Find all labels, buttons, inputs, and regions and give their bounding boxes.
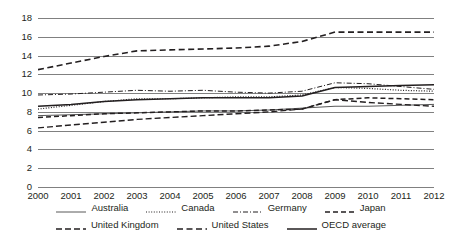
legend-row: United KingdomUnited StatesOECD average [0, 216, 442, 233]
legend-swatch-icon [287, 220, 317, 230]
legend-label: Japan [360, 203, 386, 213]
y-tick-label: 4 [10, 144, 32, 154]
series-lines [38, 18, 434, 187]
y-tick-label: 14 [10, 51, 32, 61]
legend-label: Australia [91, 203, 128, 213]
legend-item-united-states[interactable]: United States [177, 220, 269, 230]
legend-swatch-icon [146, 203, 176, 213]
legend-swatch-icon [233, 203, 263, 213]
legend-swatch-icon [56, 220, 86, 230]
y-tick-label: 10 [10, 88, 32, 98]
legend-item-germany[interactable]: Germany [233, 203, 307, 213]
legend-swatch-icon [56, 203, 86, 213]
legend-item-oecd-average[interactable]: OECD average [287, 220, 386, 230]
legend-item-united-kingdom[interactable]: United Kingdom [56, 220, 159, 230]
plot-area [38, 18, 434, 187]
y-tick-label: 16 [10, 32, 32, 42]
y-tick-label: 8 [10, 107, 32, 117]
legend-label: OECD average [322, 220, 386, 230]
series-line-japan [38, 98, 434, 118]
legend-item-canada[interactable]: Canada [146, 203, 214, 213]
chart-legend: AustraliaCanadaGermanyJapanUnited Kingdo… [0, 199, 442, 233]
legend-label: Canada [181, 203, 214, 213]
legend-swatch-icon [177, 220, 207, 230]
gridline [38, 187, 434, 188]
legend-label: United Kingdom [91, 220, 159, 230]
y-tick-label: 12 [10, 69, 32, 79]
legend-item-australia[interactable]: Australia [56, 203, 128, 213]
y-tick-label: 18 [10, 13, 32, 23]
legend-row: AustraliaCanadaGermanyJapan [0, 199, 442, 216]
series-line-united-states [38, 32, 434, 70]
legend-label: United States [212, 220, 269, 230]
y-tick-label: 6 [10, 126, 32, 136]
legend-item-japan[interactable]: Japan [325, 203, 386, 213]
legend-label: Germany [268, 203, 307, 213]
y-tick-label: 2 [10, 163, 32, 173]
legend-swatch-icon [325, 203, 355, 213]
